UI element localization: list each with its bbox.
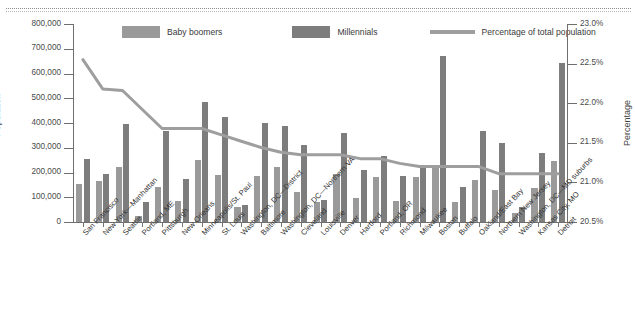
y-tick-label-left: 500,000 [31, 93, 61, 102]
y-tick-label-left: 400,000 [31, 118, 61, 127]
y-tick-label-left: 200,000 [31, 167, 61, 176]
x-tick [519, 222, 520, 227]
y-tick-right [568, 103, 577, 104]
x-tick [123, 222, 124, 227]
y-tick-label-left: 0 [56, 217, 61, 226]
y-tick-label-left: 100,000 [31, 192, 61, 201]
y-tick-left [64, 74, 73, 75]
chart-figure: Population Percentage Baby boomersMillen… [0, 0, 635, 331]
y-tick-right [568, 143, 577, 144]
y-tick-label-right: 22.0% [580, 98, 603, 107]
y-axis-title-right: Percentage [622, 100, 632, 146]
scan-artifact-line-top-2 [6, 11, 631, 12]
y-tick-label-right: 23.0% [580, 19, 603, 28]
y-axis-title-left: Population [0, 94, 2, 137]
y-tick-left [64, 98, 73, 99]
percentage-trend-line [83, 60, 558, 174]
x-tick [420, 222, 421, 227]
y-tick-right [568, 24, 577, 25]
y-tick-left [64, 24, 73, 25]
y-tick-label-right: 21.5% [580, 137, 603, 146]
y-tick-left [64, 222, 73, 223]
y-tick-label-right: 22.5% [580, 58, 603, 67]
x-tick [222, 222, 223, 227]
x-tick [321, 222, 322, 227]
y-tick-right [568, 64, 577, 65]
y-tick-label-left: 800,000 [31, 19, 61, 28]
y-tick-left [64, 173, 73, 174]
y-tick-left [64, 148, 73, 149]
y-tick-label-right: 21.0% [580, 177, 603, 186]
y-tick-label-right: 20.5% [580, 217, 603, 226]
y-tick-left [64, 123, 73, 124]
y-tick-left [64, 49, 73, 50]
y-tick-label-left: 700,000 [31, 43, 61, 52]
scan-artifact-line-top [6, 8, 631, 9]
y-tick-label-left: 600,000 [31, 68, 61, 77]
y-tick-label-left: 300,000 [31, 142, 61, 151]
y-tick-left [64, 197, 73, 198]
